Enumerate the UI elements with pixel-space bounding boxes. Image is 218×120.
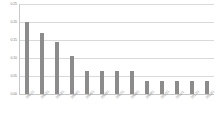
bar <box>40 33 44 94</box>
bar <box>190 81 194 94</box>
x-labels-layer: 2001/12002/12003/12004/12005/12006/12007… <box>19 95 214 120</box>
y-tick-label-4: 0.05 <box>0 74 17 78</box>
bar <box>100 71 104 94</box>
bar <box>145 81 149 94</box>
y-tick-label-0: 0.25 <box>0 2 17 6</box>
y-tick-label-3: 0.10 <box>0 56 17 60</box>
bar <box>55 42 59 94</box>
y-tick-label-5: 0.00 <box>0 92 17 96</box>
y-tick-label-1: 0.20 <box>0 20 17 24</box>
bar <box>130 71 134 94</box>
bar <box>160 81 164 94</box>
bar <box>205 81 209 94</box>
y-tick-label-2: 0.15 <box>0 38 17 42</box>
bar-chart: 0.25 0.20 0.15 0.10 0.05 0.00 2001/12002… <box>0 0 218 120</box>
bar <box>115 71 119 94</box>
bar <box>25 22 29 94</box>
bar <box>85 71 89 94</box>
bars-layer <box>19 4 214 94</box>
bar <box>175 81 179 94</box>
bar <box>70 56 74 94</box>
